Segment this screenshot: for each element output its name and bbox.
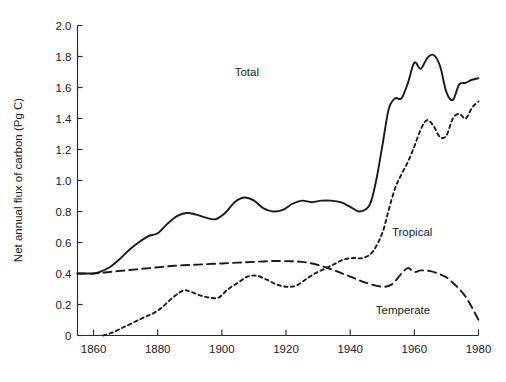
series-label-tropical: Tropical xyxy=(392,226,432,238)
y-axis-title: Net annual flux of carbon (Pg C) xyxy=(12,98,24,262)
y-tick-label: 1.2 xyxy=(56,144,72,156)
y-tick-label: 0.4 xyxy=(56,268,73,280)
series-lines xyxy=(78,55,479,336)
series-label-temperate: Temperate xyxy=(376,304,430,316)
y-tick-label: 1.4 xyxy=(56,113,73,125)
x-tick-label: 1940 xyxy=(337,343,363,355)
y-tick-label: 1.8 xyxy=(56,51,72,63)
x-tick-label: 1860 xyxy=(81,343,107,355)
x-tick-label: 1920 xyxy=(273,343,299,355)
x-tick-label: 1960 xyxy=(402,343,428,355)
x-axis-ticks: 1860188019001920194019601980 xyxy=(81,330,492,355)
y-tick-label: 1.6 xyxy=(56,82,72,94)
series-label-total: Total xyxy=(235,66,259,78)
series-line-total xyxy=(78,55,479,274)
line-chart: Net annual flux of carbon (Pg C) 00.20.4… xyxy=(0,0,506,382)
y-tick-label: 0 xyxy=(65,330,71,342)
x-tick-label: 1880 xyxy=(145,343,171,355)
chart-figure: Net annual flux of carbon (Pg C) 00.20.4… xyxy=(0,0,506,382)
y-tick-label: 0.8 xyxy=(56,206,72,218)
y-axis-ticks: 00.20.40.60.81.01.21.41.61.82.0 xyxy=(56,20,83,342)
y-tick-label: 0.6 xyxy=(56,237,72,249)
y-tick-label: 1.0 xyxy=(56,175,72,187)
y-tick-label: 2.0 xyxy=(56,20,72,32)
x-tick-label: 1900 xyxy=(209,343,235,355)
series-labels: TotalTemperateTropical xyxy=(235,66,433,316)
y-tick-label: 0.2 xyxy=(56,299,72,311)
series-line-tropical xyxy=(103,101,478,335)
x-tick-label: 1980 xyxy=(466,343,492,355)
